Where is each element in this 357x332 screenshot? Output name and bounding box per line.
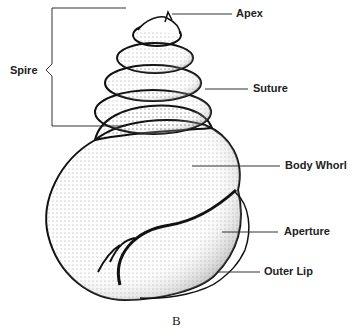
figure-caption: B: [172, 313, 181, 329]
aperture-label: Aperture: [284, 225, 330, 237]
outer-lip-label: Outer Lip: [264, 265, 313, 277]
spire-label: Spire: [10, 64, 38, 76]
body-whorl-label: Body Whorl: [285, 159, 347, 171]
apex-label: Apex: [236, 7, 263, 19]
suture-label: Suture: [253, 82, 288, 94]
